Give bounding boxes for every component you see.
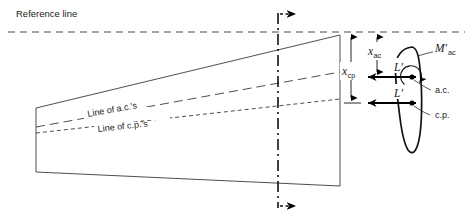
line-of-cps [36,99,340,133]
ac-leader-line [414,80,431,90]
wing-trailing-edge [36,172,340,186]
aerodynamics-wing-diagram: Reference line Line of a.c.'s Line of c.… [0,0,473,218]
lift-lower-label: L′ [393,87,403,99]
line-of-acs [36,72,340,127]
diagram-canvas: Reference line Line of a.c.'s Line of c.… [0,0,473,218]
ac-callout-label: a.c. [435,85,450,95]
aerodynamic-center-point [409,74,414,79]
moment-leader-line [418,52,433,56]
moment-label: M′ac [434,42,456,57]
x-cp-dimension: xcp [340,37,362,103]
wing-leading-edge [36,35,340,108]
cp-callout-label: c.p. [435,110,450,120]
center-of-pressure-point [409,100,414,105]
reference-line-label: Reference line [16,8,77,19]
wing-planform [36,35,340,186]
x-ac-dimension: xac [366,37,388,77]
